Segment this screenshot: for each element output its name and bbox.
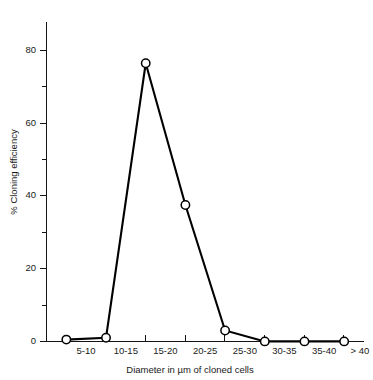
y-tick-label-40: 40 [25,189,36,200]
data-markers-group [62,59,348,346]
data-point-marker [300,337,308,345]
y-tick-label-20: 20 [25,262,36,273]
x-tick-label-10-15: 10-15 [114,345,138,356]
x-tick-label-35-40: 35-40 [312,345,336,356]
data-point-marker [181,201,189,209]
y-axis-tick-labels: 80 60 40 20 0 [25,44,36,346]
x-tick-label-15-20: 15-20 [153,345,177,356]
y-tick-label-80: 80 [25,44,36,55]
chart-figure: 80 60 40 20 0 5-10 10-15 15-20 20-25 25-… [0,0,373,380]
data-point-marker [102,334,110,342]
line-chart-plot: 80 60 40 20 0 5-10 10-15 15-20 20-25 25-… [0,0,373,380]
axis-lines [47,22,365,342]
x-tick-label-20-25: 20-25 [193,345,217,356]
y-tick-label-0: 0 [31,335,36,346]
x-tick-label-gt-40: > 40 [351,345,370,356]
x-tick-label-30-35: 30-35 [272,345,296,356]
y-tick-label-60: 60 [25,117,36,128]
x-axis-title: Diameter in µm of cloned cells [126,364,254,375]
data-series-group [62,59,348,346]
y-axis-title: % Cloning efficiency [8,129,19,215]
data-point-marker [62,335,70,343]
data-point-marker [142,59,150,67]
y-axis-major-ticks [40,51,47,342]
data-line-cloning-efficiency [66,63,344,341]
x-axis-tick-labels: 5-10 10-15 15-20 20-25 25-30 30-35 35-40… [77,345,370,356]
x-tick-label-5-10: 5-10 [77,345,96,356]
x-tick-label-25-30: 25-30 [233,345,257,356]
data-point-marker [340,337,348,345]
data-point-marker [221,326,229,334]
data-point-marker [261,337,269,345]
